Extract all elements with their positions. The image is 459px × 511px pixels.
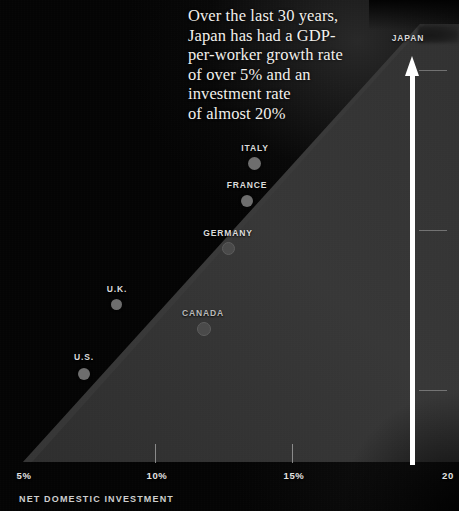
arrow-shaft	[410, 74, 415, 465]
data-point-label-germany: GERMANY	[203, 228, 252, 238]
headline-text-block: Over the last 30 years, Japan has had a …	[188, 6, 373, 123]
data-point-label-uk: U.K.	[107, 284, 127, 294]
headline-line: investment rate	[188, 84, 373, 104]
headline-line: per-worker growth rate	[188, 45, 373, 65]
japan-growth-arrow[interactable]	[405, 56, 420, 465]
headline-line: Over the last 30 years,	[188, 6, 373, 26]
data-point-label-canada: CANADA	[182, 308, 224, 318]
headline-line: of over 5% and an	[188, 65, 373, 85]
data-point-label-italy: ITALY	[241, 143, 268, 153]
axis-tick-mark	[155, 444, 156, 463]
data-point-label-france: FRANCE	[227, 180, 268, 190]
data-point-label-japan: JAPAN	[392, 33, 424, 43]
data-point-dot-us	[78, 368, 90, 380]
data-point-label-us: U.S.	[74, 352, 94, 362]
axis-tick-label-10: 10%	[147, 470, 168, 481]
x-axis-title: NET DOMESTIC INVESTMENT	[19, 494, 174, 504]
right-axis-tick	[419, 390, 447, 391]
data-point-dot-italy	[248, 157, 261, 170]
plot-area: U.S. U.K. CANADA GERMANY FRANCE ITALY JA…	[0, 0, 459, 511]
axis-tick-label-20: 20	[442, 470, 454, 481]
up-arrow-icon	[405, 56, 419, 76]
right-axis-tick	[419, 230, 447, 231]
axis-tick-label-5: 5%	[17, 470, 32, 481]
axis-tick-label-15: 15%	[284, 470, 305, 481]
axis-tick-mark	[292, 444, 293, 463]
data-point-dot-germany	[222, 242, 235, 255]
headline-line: Japan has had a GDP-	[188, 26, 373, 46]
data-point-dot-uk	[111, 299, 122, 310]
right-axis-tick	[419, 70, 447, 71]
headline-line: of almost 20%	[188, 104, 373, 124]
chart-page: U.S. U.K. CANADA GERMANY FRANCE ITALY JA…	[0, 0, 459, 511]
data-point-dot-canada	[197, 322, 211, 336]
data-point-dot-france	[241, 195, 253, 207]
